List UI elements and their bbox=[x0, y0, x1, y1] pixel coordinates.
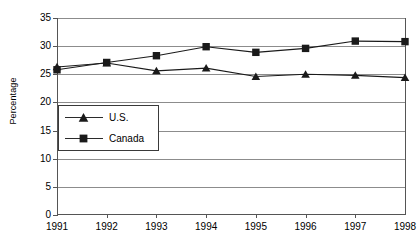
y-axis-title: Percentage bbox=[8, 61, 18, 141]
plot-right-border bbox=[405, 18, 406, 215]
square-marker-icon bbox=[78, 133, 89, 144]
x-tick-1997: 1997 bbox=[333, 222, 377, 232]
data-point-canada-1997 bbox=[352, 37, 359, 44]
y-tick-35: 35 bbox=[23, 13, 51, 23]
triangle-marker-icon bbox=[78, 112, 89, 123]
data-point-canada-1998 bbox=[401, 38, 408, 45]
data-point-canada-1994 bbox=[202, 43, 209, 50]
x-tick-1996: 1996 bbox=[284, 222, 328, 232]
x-tick-1995: 1995 bbox=[234, 222, 278, 232]
legend: U.S. Canada bbox=[58, 105, 159, 151]
data-point-canada-1996 bbox=[302, 45, 309, 52]
line-chart: Percentage 05101520253035 19911992199319… bbox=[0, 0, 420, 252]
y-tick-30: 30 bbox=[23, 41, 51, 51]
y-tick-0: 0 bbox=[23, 210, 51, 220]
y-tick-10: 10 bbox=[23, 154, 51, 164]
y-tickmark-0 bbox=[53, 215, 58, 216]
x-tick-1993: 1993 bbox=[134, 222, 178, 232]
legend-label-us: U.S. bbox=[109, 111, 128, 124]
legend-item-us: U.S. bbox=[63, 109, 157, 127]
data-point-canada-1991 bbox=[53, 66, 60, 73]
data-point-canada-1995 bbox=[252, 49, 259, 56]
y-tick-5: 5 bbox=[23, 182, 51, 192]
x-tick-1992: 1992 bbox=[85, 222, 129, 232]
x-tick-1991: 1991 bbox=[35, 222, 79, 232]
y-tick-20: 20 bbox=[23, 97, 51, 107]
legend-label-canada: Canada bbox=[109, 132, 144, 145]
data-point-canada-1993 bbox=[153, 52, 160, 59]
y-tick-25: 25 bbox=[23, 69, 51, 79]
x-tick-1994: 1994 bbox=[184, 222, 228, 232]
data-point-canada-1992 bbox=[103, 59, 110, 66]
y-tick-15: 15 bbox=[23, 126, 51, 136]
x-tick-1998: 1998 bbox=[383, 222, 420, 232]
legend-item-canada: Canada bbox=[63, 130, 157, 148]
